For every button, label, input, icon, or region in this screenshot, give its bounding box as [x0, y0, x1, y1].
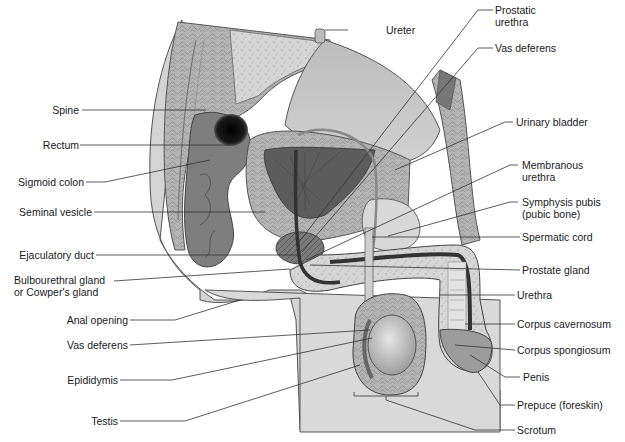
ureter-stub [315, 29, 325, 43]
label-spine: Spine [52, 104, 79, 116]
label-ureter: Ureter [386, 24, 415, 36]
label-prostate-gland: Prostate gland [522, 264, 590, 276]
label-prostatic-urethra: Prostatic urethra [495, 4, 536, 28]
label-testis: Testis [91, 415, 118, 427]
label-urinary-bladder: Urinary bladder [516, 116, 588, 128]
label-prepuce: Prepuce (foreskin) [517, 399, 603, 411]
label-rectum: Rectum [43, 139, 79, 151]
label-vas-deferens-right: Vas deferens [495, 42, 556, 54]
label-bulbourethral-gland: Bulbourethral gland or Cowper's gland [14, 274, 105, 298]
label-sigmoid-colon: Sigmoid colon [18, 176, 84, 188]
label-epididymis: Epididymis [67, 374, 118, 386]
label-ejaculatory-duct: Ejaculatory duct [19, 249, 94, 261]
label-scrotum: Scrotum [517, 424, 556, 436]
label-anal-opening: Anal opening [67, 314, 128, 326]
label-symphysis-pubis: Symphysis pubis (pubic bone) [522, 196, 601, 220]
label-corpus-cavernosum: Corpus cavernosum [517, 318, 611, 330]
label-membranous-urethra: Membranous urethra [522, 159, 583, 183]
label-spermatic-cord: Spermatic cord [522, 231, 593, 243]
label-urethra: Urethra [517, 289, 552, 301]
testis-shape [368, 315, 416, 375]
label-vas-deferens-left: Vas deferens [67, 339, 128, 351]
label-corpus-spongiosum: Corpus spongiosum [517, 344, 610, 356]
rectum-cavity [214, 114, 248, 146]
label-penis: Penis [523, 371, 549, 383]
label-seminal-vesicle: Seminal vesicle [19, 206, 92, 218]
